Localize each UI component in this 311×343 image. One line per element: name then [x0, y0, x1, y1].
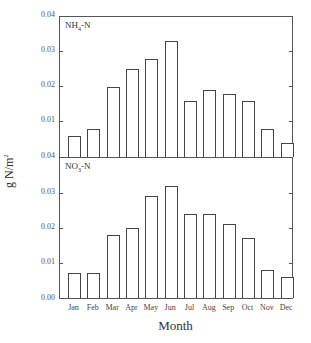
- no3-bar-nov: [261, 270, 274, 298]
- ytick-bottom-3: 0.00: [19, 293, 55, 302]
- ytick-top-1: 0.03: [19, 45, 55, 54]
- ytick-bottom-2: 0.01: [19, 257, 55, 266]
- ytick-top-2: 0.02: [19, 80, 55, 89]
- tick: [289, 121, 292, 122]
- x-tick-dec: Dec: [276, 303, 296, 312]
- ytick-top-0: 0.04: [19, 10, 55, 19]
- tick: [60, 51, 63, 52]
- no3-label-tail: -N: [81, 161, 91, 171]
- x-tick-oct: Oct: [238, 303, 258, 312]
- nh4-bar-oct: [242, 101, 255, 157]
- nh4-bar-nov: [261, 129, 274, 157]
- no3-bar-apr: [126, 228, 139, 298]
- ytick-bottom-0: 0.03: [19, 187, 55, 196]
- x-axis-label: Month: [0, 318, 311, 334]
- ytick-top-4: 0.04: [19, 151, 55, 160]
- nh4-panel-label: NH4-N: [65, 20, 91, 32]
- tick: [289, 228, 292, 229]
- no3-bar-sep: [223, 224, 236, 298]
- nh4-panel: NH4-N: [59, 16, 293, 158]
- x-tick-feb: Feb: [83, 303, 103, 312]
- no3-label-main: NO: [65, 161, 78, 171]
- tick: [289, 51, 292, 52]
- x-tick-may: May: [141, 303, 161, 312]
- nh4-bar-aug: [203, 90, 216, 157]
- tick: [60, 228, 63, 229]
- no3-panel-label: NO3-N: [65, 161, 91, 173]
- nh4-bar-apr: [126, 69, 139, 157]
- x-tick-jun: Jun: [160, 303, 180, 312]
- y-axis-label-sup: 2: [2, 154, 10, 158]
- ytick-top-3: 0.01: [19, 115, 55, 124]
- no3-bar-dec: [281, 277, 294, 298]
- x-tick-sep: Sep: [218, 303, 238, 312]
- x-tick-aug: Aug: [199, 303, 219, 312]
- nh4-bar-may: [145, 59, 158, 157]
- no3-bar-jul: [184, 214, 197, 298]
- y-axis-label-text: g N/m: [2, 158, 16, 188]
- x-tick-jul: Jul: [180, 303, 200, 312]
- no3-bar-jan: [68, 273, 81, 298]
- nh4-bar-mar: [107, 87, 120, 157]
- ytick-bottom-1: 0.02: [19, 222, 55, 231]
- tick: [60, 121, 63, 122]
- tick: [289, 86, 292, 87]
- no3-bar-feb: [87, 273, 100, 298]
- no3-bar-mar: [107, 235, 120, 298]
- no3-bar-may: [145, 196, 158, 298]
- x-tick-mar: Mar: [102, 303, 122, 312]
- nh4-bar-feb: [87, 129, 100, 157]
- tick: [289, 263, 292, 264]
- tick: [60, 193, 63, 194]
- nh4-bar-jul: [184, 101, 197, 157]
- nh4-bar-dec: [281, 143, 294, 157]
- tick: [289, 193, 292, 194]
- nh4-bar-jun: [165, 41, 178, 157]
- no3-bar-oct: [242, 238, 255, 298]
- nh4-bar-sep: [223, 94, 236, 157]
- nh4-bar-jan: [68, 136, 81, 157]
- tick: [60, 263, 63, 264]
- nh4-label-tail: -N: [81, 20, 91, 30]
- no3-bar-aug: [203, 214, 216, 298]
- x-tick-nov: Nov: [257, 303, 277, 312]
- tick: [60, 86, 63, 87]
- x-tick-apr: Apr: [122, 303, 142, 312]
- nh4-label-main: NH: [65, 20, 78, 30]
- no3-bar-jun: [165, 186, 178, 298]
- no3-panel: NO3-N: [59, 157, 293, 299]
- y-axis-label: g N/m2: [2, 154, 17, 188]
- x-tick-jan: Jan: [64, 303, 84, 312]
